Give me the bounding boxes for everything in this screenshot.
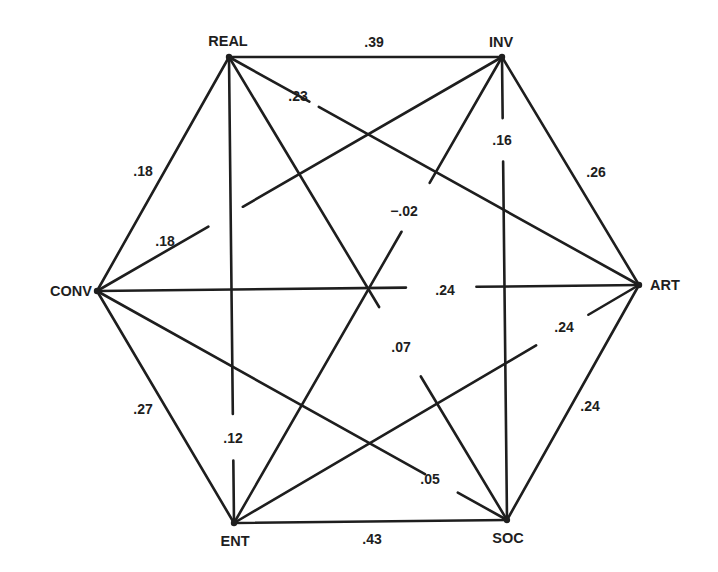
node-dot <box>94 288 100 294</box>
edge-real-soc-segment <box>421 376 507 520</box>
edge-inv-art-line <box>502 57 639 285</box>
edge-inv-soc <box>502 57 507 520</box>
edge-value-label: .12 <box>223 430 243 446</box>
edge-value-label: .43 <box>362 531 382 547</box>
node-label: ENT <box>221 533 250 549</box>
node-conv: CONV <box>50 283 100 299</box>
edge-inv-art <box>502 57 639 285</box>
edge-value-label: .26 <box>586 164 606 180</box>
edges-layer <box>97 57 639 523</box>
node-label: ART <box>650 277 680 293</box>
node-dot <box>231 520 237 526</box>
edge-value-label: .24 <box>435 282 455 298</box>
edge-ent-conv <box>97 291 234 523</box>
edge-real-ent-segment <box>233 461 234 523</box>
node-dot <box>504 517 510 523</box>
edge-soc-conv-segment <box>97 291 425 474</box>
riasec-hexagon-diagram: .39.26.24.43.27.18.23.07.12.18.16−.02.24… <box>0 0 718 572</box>
edge-art-ent-segment <box>234 345 536 523</box>
node-label: SOC <box>492 530 524 546</box>
edge-value-label: .05 <box>420 471 440 487</box>
edge-art-ent <box>234 285 639 523</box>
edge-value-label: .07 <box>391 339 411 355</box>
edge-value-label: −.02 <box>390 203 418 219</box>
edge-inv-soc-segment <box>502 57 503 118</box>
edge-value-label: .23 <box>288 88 308 104</box>
edge-ent-conv-line <box>97 291 234 523</box>
edge-value-label: .27 <box>133 401 153 417</box>
edge-inv-ent-segment <box>234 232 402 523</box>
edge-inv-soc-segment <box>503 162 507 520</box>
node-label: INV <box>489 34 514 50</box>
edge-conv-real <box>97 57 229 291</box>
edge-inv-conv-segment <box>243 57 502 207</box>
edge-real-ent-segment <box>229 57 233 414</box>
edge-value-label: .39 <box>364 34 384 50</box>
edge-art-conv-segment <box>476 285 639 287</box>
node-label: REAL <box>208 33 248 49</box>
node-label: CONV <box>50 283 92 299</box>
edge-soc-ent <box>234 520 507 523</box>
edge-soc-ent-line <box>234 520 507 523</box>
edge-value-label: .18 <box>155 233 175 249</box>
edge-value-label: .24 <box>580 398 600 414</box>
node-art: ART <box>636 277 680 293</box>
edge-value-label: .24 <box>554 319 574 335</box>
node-dot <box>226 54 232 60</box>
node-ent: ENT <box>221 520 250 549</box>
edge-soc-conv <box>97 291 507 520</box>
edge-value-label: .18 <box>133 163 153 179</box>
edge-value-label: .16 <box>492 132 512 148</box>
edge-art-conv-segment <box>97 288 406 291</box>
edge-conv-real-line <box>97 57 229 291</box>
edge-inv-ent-segment <box>430 57 502 183</box>
node-dot <box>636 282 642 288</box>
node-dot <box>499 54 505 60</box>
